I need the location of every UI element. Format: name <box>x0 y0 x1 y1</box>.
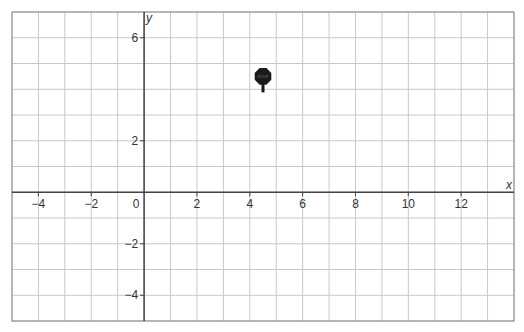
x-tick-label: 0 <box>133 197 140 211</box>
x-tick-label: 10 <box>402 197 416 211</box>
x-tick-label: 12 <box>454 197 468 211</box>
y-tick-label: 2 <box>131 134 138 148</box>
y-axis-label: y <box>145 11 153 25</box>
grid-lines <box>12 12 514 321</box>
x-tick-label: 4 <box>246 197 253 211</box>
x-axis-label: x <box>505 178 513 192</box>
data-points: STOP <box>255 68 272 92</box>
y-tick-label: 6 <box>131 31 138 45</box>
y-tick-label: −2 <box>124 237 138 251</box>
coordinate-plane: −4−2024681012−4−226 x y STOP <box>0 0 524 332</box>
x-tick-label: −2 <box>84 197 98 211</box>
x-tick-label: −4 <box>32 197 46 211</box>
stop-sign-text: STOP <box>258 74 269 79</box>
x-tick-label: 2 <box>194 197 201 211</box>
x-tick-label: 8 <box>352 197 359 211</box>
x-tick-label: 6 <box>299 197 306 211</box>
stop-sign-icon: STOP <box>255 68 272 92</box>
y-tick-label: −4 <box>124 288 138 302</box>
